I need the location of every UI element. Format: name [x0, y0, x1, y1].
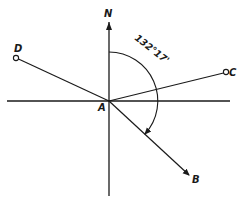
point-d-marker — [13, 55, 18, 60]
point-d-label: D — [14, 43, 22, 54]
north-arrow-icon — [106, 22, 112, 30]
north-label: N — [104, 8, 113, 19]
point-b-label: B — [192, 174, 200, 185]
origin-label: A — [97, 102, 106, 113]
line-a-c — [109, 73, 224, 101]
line-a-b — [109, 101, 189, 175]
point-c-marker — [223, 69, 228, 74]
line-a-d — [19, 59, 110, 101]
bearing-diagram: N A D C B 132°17' — [0, 0, 245, 202]
point-c-label: C — [229, 67, 237, 78]
angle-arc — [109, 52, 158, 134]
angle-label: 132°17' — [133, 32, 172, 66]
